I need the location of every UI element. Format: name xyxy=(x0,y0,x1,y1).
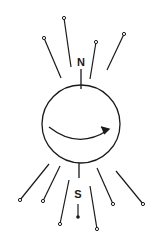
field-line-endpoint-icon xyxy=(58,222,61,225)
field-line-nw-inner xyxy=(64,18,71,67)
field-line-sw-inner xyxy=(60,180,69,224)
north-pole-label: N xyxy=(77,56,85,68)
sphere-circle xyxy=(42,85,120,163)
field-line-endpoint-icon xyxy=(18,198,21,201)
field-line-endpoint-icon xyxy=(95,227,98,230)
magnetic-sphere-diagram: N S xyxy=(0,0,159,244)
field-line-sw-mid xyxy=(43,166,60,201)
south-pole-dot xyxy=(76,215,80,219)
south-pole-label: S xyxy=(74,188,81,200)
field-line-nw-outer xyxy=(44,38,61,78)
field-line-se-mid xyxy=(97,168,113,204)
field-line-endpoint-icon xyxy=(122,32,125,35)
field-line-se-outer xyxy=(116,171,143,204)
field-line-endpoint-icon xyxy=(62,16,65,19)
rotation-arrow-arc xyxy=(49,127,108,139)
field-line-ne-inner xyxy=(90,42,96,79)
field-line-endpoint-icon xyxy=(94,40,97,43)
field-line-endpoint-icon xyxy=(141,202,144,205)
field-line-endpoint-icon xyxy=(41,199,44,202)
diagram-canvas: N S xyxy=(0,0,159,244)
field-line-endpoint-icon xyxy=(111,202,114,205)
field-line-endpoint-icon xyxy=(42,36,45,39)
field-line-sw-outer xyxy=(20,164,49,200)
field-line-ne-outer xyxy=(107,34,124,70)
field-line-se-inner xyxy=(90,186,97,229)
